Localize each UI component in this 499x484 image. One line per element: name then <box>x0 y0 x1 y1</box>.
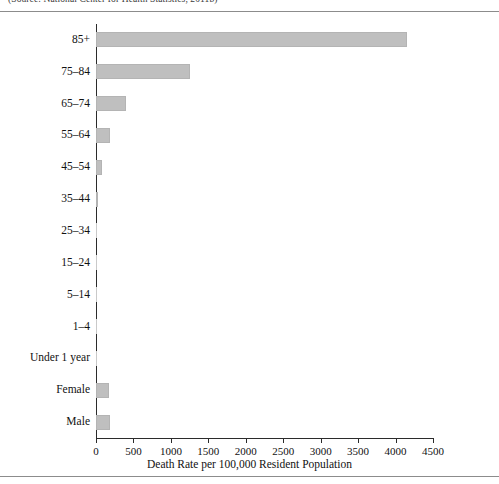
bar <box>96 255 97 270</box>
bar-row: 5–14 <box>96 279 433 311</box>
bar-row: 25–34 <box>96 215 433 247</box>
x-tick-label: 3000 <box>310 445 332 457</box>
bar <box>96 64 190 79</box>
category-label: 25–34 <box>0 224 90 236</box>
x-tick <box>246 438 247 443</box>
bar-row: 65–74 <box>96 88 433 120</box>
bar-row: Male <box>96 406 433 438</box>
figure-container: (Source: National Center for Health Stat… <box>0 0 499 484</box>
x-tick-label: 0 <box>93 445 99 457</box>
category-label: 5–14 <box>0 288 90 300</box>
x-tick-label: 3500 <box>347 445 369 457</box>
bar-row: Under 1 year <box>96 342 433 374</box>
bar <box>96 96 126 111</box>
category-label: 15–24 <box>0 256 90 268</box>
category-label: Under 1 year <box>0 351 90 363</box>
category-label: 85+ <box>0 33 90 45</box>
bar-row: 75–84 <box>96 56 433 88</box>
x-tick-label: 2000 <box>235 445 257 457</box>
bar-row: 45–54 <box>96 151 433 183</box>
x-tick-label: 4000 <box>385 445 407 457</box>
x-tick-label: 1500 <box>197 445 219 457</box>
chart-plot-area: 85+75–8465–7455–6445–5435–4425–3415–245–… <box>96 24 433 438</box>
bar <box>96 128 110 143</box>
bar <box>96 415 110 430</box>
bar-row: 35–44 <box>96 183 433 215</box>
bar-row: 85+ <box>96 24 433 56</box>
x-tick-label: 2500 <box>272 445 294 457</box>
x-tick-label: 4500 <box>422 445 444 457</box>
bar <box>96 383 109 398</box>
bar <box>96 351 97 366</box>
x-axis-line <box>96 438 433 439</box>
category-label: 65–74 <box>0 97 90 109</box>
category-label: Female <box>0 383 90 395</box>
x-tick <box>321 438 322 443</box>
x-tick <box>96 438 97 443</box>
source-note: (Source: National Center for Health Stat… <box>8 0 218 4</box>
bar-row: 15–24 <box>96 247 433 279</box>
x-tick <box>133 438 134 443</box>
category-label: Male <box>0 415 90 427</box>
category-label: 55–64 <box>0 128 90 140</box>
bar <box>96 160 102 175</box>
bar <box>96 287 97 302</box>
category-label: 75–84 <box>0 65 90 77</box>
x-tick <box>358 438 359 443</box>
x-tick-label: 500 <box>125 445 142 457</box>
x-tick <box>433 438 434 443</box>
bar-row: Female <box>96 374 433 406</box>
bar <box>96 32 407 47</box>
x-tick-label: 1000 <box>160 445 182 457</box>
figure-bottom-rule <box>0 476 499 477</box>
bar-row: 55–64 <box>96 120 433 152</box>
x-tick <box>283 438 284 443</box>
category-label: 45–54 <box>0 160 90 172</box>
category-label: 1–4 <box>0 320 90 332</box>
x-tick <box>208 438 209 443</box>
x-tick <box>396 438 397 443</box>
bar <box>96 192 98 207</box>
bar-row: 1–4 <box>96 311 433 343</box>
x-tick <box>171 438 172 443</box>
bar-rows: 85+75–8465–7455–6445–5435–4425–3415–245–… <box>96 24 433 438</box>
category-label: 35–44 <box>0 192 90 204</box>
x-axis-title: Death Rate per 100,000 Resident Populati… <box>0 458 499 470</box>
figure-top-rule <box>0 11 499 12</box>
bar <box>96 319 97 334</box>
bar <box>96 223 97 238</box>
